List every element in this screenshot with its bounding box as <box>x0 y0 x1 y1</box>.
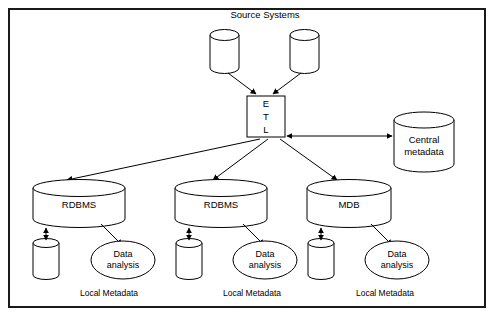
source-db-right <box>290 30 319 74</box>
etl-letter-l: L <box>263 124 268 135</box>
etl-letter-t: T <box>263 111 269 122</box>
etl-box: E T L <box>247 96 285 137</box>
edge-etl-to-warehouse-1 <box>67 139 260 180</box>
warehouse-1-label: RDBMS <box>62 199 96 210</box>
edge-source-right-to-etl <box>273 73 301 94</box>
central-metadata-db: Central metadata <box>394 112 454 172</box>
warehouse-2-rdbms: RDBMS <box>175 180 267 228</box>
data-analysis-3-label-line1: Data <box>387 249 406 259</box>
data-analysis-2-label-line1: Data <box>255 249 274 259</box>
central-metadata-label-line2: metadata <box>404 146 444 157</box>
warehouse-3-label: MDB <box>338 199 359 210</box>
data-analysis-1-label-line1: Data <box>113 249 132 259</box>
edge-etl-to-warehouse-2 <box>213 139 268 180</box>
local-metadata-1-caption: Local Metadata <box>80 288 138 298</box>
local-metadata-3-db <box>308 239 334 280</box>
etl-letter-e: E <box>263 98 269 109</box>
data-analysis-3-label-line2: analysis <box>381 260 414 270</box>
data-analysis-2: Data analysis <box>233 241 297 279</box>
data-analysis-2-label-line2: analysis <box>249 260 282 270</box>
warehouse-3-mdb: MDB <box>307 180 391 228</box>
edge-etl-to-warehouse-3 <box>280 139 337 180</box>
warehouse-1-rdbms: RDBMS <box>33 180 125 228</box>
warehouse-2-label: RDBMS <box>204 199 238 210</box>
local-metadata-3-caption: Local Metadata <box>356 288 414 298</box>
local-metadata-1-db <box>33 239 59 280</box>
data-analysis-1: Data analysis <box>91 241 155 279</box>
page-title: Source Systems <box>230 9 299 20</box>
local-metadata-2-caption: Local Metadata <box>223 288 281 298</box>
diagram-canvas: Source Systems E T L Central metadata <box>0 0 496 317</box>
local-metadata-2-db <box>176 239 202 280</box>
source-db-left <box>210 30 239 74</box>
data-analysis-1-label-line2: analysis <box>107 260 140 270</box>
data-analysis-3: Data analysis <box>365 241 429 279</box>
edge-source-left-to-etl <box>228 73 256 94</box>
data-warehouse-architecture-diagram: Source Systems E T L Central metadata <box>0 0 496 317</box>
central-metadata-label-line1: Central <box>409 134 440 145</box>
